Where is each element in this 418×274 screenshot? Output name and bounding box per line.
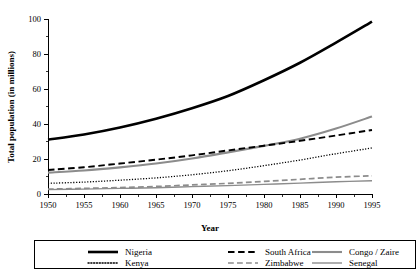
legend-item-nigeria[interactable]: Nigeria <box>88 247 152 257</box>
legend-items: NigeriaSouth AfricaCongo / ZaireKenyaZim… <box>88 247 399 268</box>
y-tick-label: 60 <box>33 84 42 94</box>
x-tick-label: 1965 <box>148 200 165 210</box>
legend-label: South Africa <box>265 247 311 257</box>
y-tick-label: 100 <box>28 14 41 24</box>
series-line-nigeria <box>48 22 372 140</box>
x-tick-label: 1980 <box>256 200 273 210</box>
y-axis-title: Total population (in millions) <box>6 51 16 163</box>
legend-item-kenya[interactable]: Kenya <box>88 258 149 268</box>
x-tick-label: 1955 <box>76 200 93 210</box>
legend-label: Senegal <box>349 258 378 268</box>
x-tick-label: 1950 <box>40 200 57 210</box>
series-lines <box>48 22 372 190</box>
x-tick-label: 1990 <box>328 200 345 210</box>
y-tick-label: 20 <box>33 154 42 164</box>
x-tick-label: 1960 <box>112 200 129 210</box>
figure-container: 020406080100 195019551960196519701975198… <box>0 0 418 274</box>
series-line-congo-zaire <box>48 116 372 172</box>
x-axis-title: Year <box>201 223 219 233</box>
y-axis: 020406080100 <box>28 14 48 199</box>
legend-label: Zimbabwe <box>265 258 304 268</box>
population-line-chart: 020406080100 195019551960196519701975198… <box>0 0 418 274</box>
legend-label: Congo / Zaire <box>349 247 399 257</box>
y-tick-label: 40 <box>33 119 42 129</box>
legend-item-senegal[interactable]: Senegal <box>312 258 378 268</box>
x-tick-label: 1975 <box>220 200 237 210</box>
series-line-south-africa <box>48 130 372 170</box>
y-tick-label: 80 <box>33 49 42 59</box>
x-axis: 1950195519601965197019751980198519901995 <box>40 194 381 210</box>
x-tick-label: 1970 <box>184 200 201 210</box>
legend-item-zimbabwe[interactable]: Zimbabwe <box>228 258 304 268</box>
legend-label: Nigeria <box>125 247 152 257</box>
y-tick-label: 0 <box>37 189 41 199</box>
chart-legend: NigeriaSouth AfricaCongo / ZaireKenyaZim… <box>34 240 415 268</box>
x-tick-label: 1985 <box>292 200 309 210</box>
legend-label: Kenya <box>125 258 149 268</box>
y-axis-ticks <box>44 19 48 194</box>
legend-item-south-africa[interactable]: South Africa <box>228 247 311 257</box>
legend-item-congo-zaire[interactable]: Congo / Zaire <box>312 247 399 257</box>
y-axis-tick-labels: 020406080100 <box>28 14 41 199</box>
x-tick-label: 1995 <box>364 200 381 210</box>
x-axis-tick-labels: 1950195519601965197019751980198519901995 <box>40 200 381 210</box>
x-axis-ticks <box>48 194 372 198</box>
